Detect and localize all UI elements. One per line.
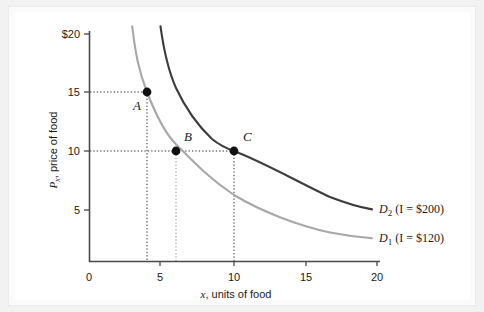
svg-text:Px, price of food: Px, price of food xyxy=(47,112,62,190)
data-point-a[interactable] xyxy=(143,88,152,97)
y-tick-label-20: $20 xyxy=(62,28,80,40)
y-axis-ticks xyxy=(84,34,89,210)
figure-container: $20 15 10 5 0 5 10 15 20 Px, price of fo… xyxy=(0,0,484,312)
y-axis-title: Px, price of food xyxy=(47,112,62,190)
x-tick-label-10: 10 xyxy=(228,271,240,283)
curve-label-d1-symbol: D xyxy=(378,231,388,245)
curve-label-d2-rest: (I = $200) xyxy=(392,202,444,216)
point-label-c: C xyxy=(243,129,252,144)
point-label-a: A xyxy=(132,98,141,113)
y-tick-label-10: 10 xyxy=(68,145,80,157)
data-point-b[interactable] xyxy=(172,147,181,156)
x-tick-label-20: 20 xyxy=(371,271,383,283)
point-label-b: B xyxy=(184,129,192,144)
axis-lines xyxy=(89,31,380,262)
x-tick-label-15: 15 xyxy=(300,271,312,283)
data-points xyxy=(143,88,239,156)
demand-curve-d1[interactable] xyxy=(132,26,372,238)
curve-label-d2-symbol: D xyxy=(378,202,388,216)
y-tick-label-15: 15 xyxy=(68,86,80,98)
y-axis-title-rest: , price of food xyxy=(47,112,59,179)
guide-lines xyxy=(90,92,234,261)
x-axis-title-rest: , units of food xyxy=(205,288,271,300)
curve-label-d1-rest: (I = $120) xyxy=(392,231,444,245)
x-axis-title: x, units of food xyxy=(200,288,272,300)
curve-label-d2: D2 (I = $200) xyxy=(378,202,444,218)
y-tick-label-5: 5 xyxy=(74,204,80,216)
x-axis-ticks xyxy=(160,262,377,266)
x-tick-label-5: 5 xyxy=(157,271,163,283)
demand-curve-chart: $20 15 10 5 0 5 10 15 20 Px, price of fo… xyxy=(0,0,484,312)
demand-curve-d2[interactable] xyxy=(161,26,373,209)
x-tick-label-0: 0 xyxy=(86,271,92,283)
curve-label-d1: D1 (I = $120) xyxy=(378,231,444,247)
data-point-c[interactable] xyxy=(230,147,239,156)
